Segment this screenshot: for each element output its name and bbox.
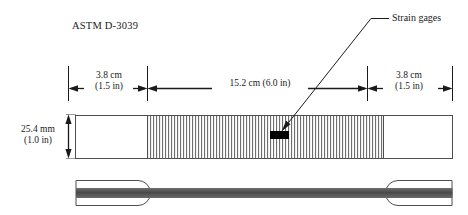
- page-title: ASTM D-3039: [72, 20, 138, 32]
- strain-gage-leader: [282, 19, 390, 132]
- plan-view: [76, 116, 453, 159]
- dimension-width: [65, 115, 76, 159]
- dimension-width-metric: 25.4 mm: [10, 124, 66, 135]
- specimen-diagram-svg: [0, 0, 468, 215]
- arrowhead-right-tab-left: [368, 85, 378, 92]
- dimension-label-gage-length: 15.2 cm (6.0 in): [214, 78, 306, 89]
- arrowhead-left-tab-left: [69, 85, 79, 92]
- dimension-right-tab-metric: 3.8 cm: [385, 70, 433, 81]
- dimension-label-left-tab: 3.8 cm (1.5 in): [85, 70, 133, 91]
- dimension-right-tab-imperial: (1.5 in): [385, 81, 433, 92]
- side-view: [76, 181, 453, 206]
- dimension-label-right-tab: 3.8 cm (1.5 in): [385, 70, 433, 91]
- arrowhead-gage-right: [358, 85, 368, 92]
- dimension-left-tab-imperial: (1.5 in): [85, 81, 133, 92]
- arrowhead-gage-left: [148, 85, 158, 92]
- arrowhead-width-bottom: [65, 149, 71, 159]
- arrowhead-width-top: [65, 115, 71, 125]
- side-laminate-core: [76, 188, 453, 198]
- arrowhead-right-tab-right: [443, 85, 453, 92]
- strain-gage-marker: [270, 131, 289, 139]
- dimension-width-imperial: (1.0 in): [10, 135, 66, 146]
- dimension-left-tab-metric: 3.8 cm: [85, 70, 133, 81]
- diagram-canvas: ASTM D-3039 Strain gages 3.8 cm (1.5 in)…: [0, 0, 468, 215]
- dimension-label-width: 25.4 mm (1.0 in): [10, 124, 66, 145]
- arrowhead-left-tab-right: [138, 85, 148, 92]
- gage-section-hatch: [147, 116, 383, 158]
- strain-gages-label: Strain gages: [392, 12, 441, 23]
- leader-diagonal-segment: [285, 19, 371, 128]
